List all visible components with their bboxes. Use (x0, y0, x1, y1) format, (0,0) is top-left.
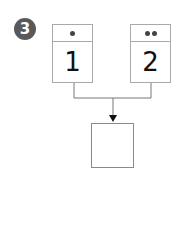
answer-box[interactable] (91, 123, 134, 168)
arrow-down-icon (109, 115, 117, 122)
join-line (74, 83, 151, 98)
